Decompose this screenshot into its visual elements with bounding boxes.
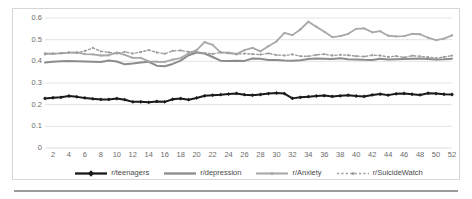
bottom-divider-rule <box>14 190 458 192</box>
series-marker <box>75 95 79 99</box>
series-marker <box>370 93 374 97</box>
series-marker <box>147 100 151 104</box>
legend-item-rsuicidewatch[interactable]: r/SuicideWatch <box>336 168 423 178</box>
series-marker <box>299 28 301 30</box>
series-marker <box>339 35 341 37</box>
series-marker <box>211 53 213 55</box>
y-axis-tick-label: 0 <box>16 144 42 152</box>
series-marker <box>267 52 269 54</box>
series-marker <box>307 21 309 23</box>
series-marker <box>172 58 174 60</box>
series-marker <box>339 54 341 56</box>
series-marker <box>394 92 398 96</box>
series-marker <box>219 51 221 53</box>
series-marker <box>322 94 326 98</box>
series-marker <box>132 57 134 59</box>
legend-item-ranxiety[interactable]: r/Anxiety <box>255 168 321 178</box>
series-marker <box>395 35 397 37</box>
series-marker <box>235 92 239 96</box>
series-marker <box>411 33 413 35</box>
series-marker <box>291 34 293 36</box>
series-marker <box>298 95 302 99</box>
series-marker <box>410 92 414 96</box>
series-marker <box>275 40 277 42</box>
series-marker <box>275 91 279 95</box>
series-marker <box>92 47 94 49</box>
series-marker <box>84 53 86 55</box>
series-marker <box>371 54 373 56</box>
series-marker <box>211 44 213 46</box>
series-marker <box>44 53 46 55</box>
legend-swatch <box>336 169 370 178</box>
series-line-rteenagers <box>45 93 452 102</box>
y-axis-tick-label: 0.1 <box>16 122 42 130</box>
series-marker <box>156 51 158 53</box>
y-axis-tick-label: 0.4 <box>16 57 42 65</box>
series-marker <box>427 37 429 39</box>
series-marker <box>179 97 183 101</box>
series-marker <box>386 93 390 97</box>
series-marker <box>108 51 110 53</box>
series-marker <box>354 94 358 98</box>
series-marker <box>203 52 205 54</box>
series-marker <box>435 39 437 41</box>
chart-legend: r/teenagersr/depressionr/Anxietyr/Suicid… <box>45 166 452 180</box>
series-marker <box>355 55 357 57</box>
series-marker <box>387 35 389 37</box>
legend-label: r/SuicideWatch <box>373 168 423 178</box>
series-marker <box>427 56 429 58</box>
series-marker <box>155 100 159 104</box>
series-marker <box>83 96 87 100</box>
plot-svg <box>45 18 452 148</box>
series-marker <box>291 53 293 55</box>
series-marker <box>283 32 285 34</box>
series-marker <box>227 92 231 96</box>
series-marker <box>403 56 405 58</box>
legend-swatch <box>255 169 289 178</box>
series-marker <box>267 92 271 96</box>
series-marker <box>379 54 381 56</box>
series-marker <box>108 54 110 56</box>
series-marker <box>60 52 62 54</box>
series-marker <box>299 55 301 57</box>
series-marker <box>395 55 397 57</box>
series-marker <box>443 56 445 58</box>
series-marker <box>52 53 54 55</box>
series-marker <box>259 50 261 52</box>
series-marker <box>195 51 197 53</box>
legend-item-rdepression[interactable]: r/depression <box>163 168 241 178</box>
series-marker <box>330 95 334 99</box>
series-marker <box>346 93 350 97</box>
series-marker <box>315 54 317 56</box>
series-marker <box>355 28 357 30</box>
legend-label: r/Anxiety <box>292 168 321 178</box>
series-line-ranxiety <box>45 22 452 62</box>
series-marker <box>140 51 142 53</box>
series-marker <box>243 93 247 97</box>
series-marker <box>140 57 142 59</box>
series-marker <box>211 93 215 97</box>
series-marker <box>363 55 365 57</box>
series-marker <box>338 94 342 98</box>
series-marker <box>164 53 166 55</box>
series-marker <box>251 53 253 55</box>
series-marker <box>435 57 437 59</box>
y-axis-tick-label: 0.5 <box>16 36 42 44</box>
series-marker <box>259 53 261 55</box>
series-marker <box>347 33 349 35</box>
series-marker <box>84 50 86 52</box>
series-marker <box>99 98 103 102</box>
series-marker <box>107 98 111 102</box>
legend-label: r/depression <box>200 168 241 178</box>
legend-item-rteenagers[interactable]: r/teenagers <box>74 168 149 178</box>
series-marker <box>187 51 189 53</box>
series-marker <box>283 54 285 56</box>
y-axis-tick-label: 0.6 <box>16 14 42 22</box>
series-marker <box>347 54 349 56</box>
series-marker <box>314 94 318 98</box>
series-marker <box>100 54 102 56</box>
series-marker <box>411 55 413 57</box>
series-marker <box>180 57 182 59</box>
series-marker <box>275 54 277 56</box>
series-marker <box>323 31 325 33</box>
